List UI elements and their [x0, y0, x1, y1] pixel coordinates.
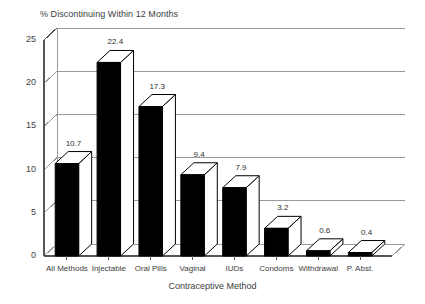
bar-value-label: 9.4	[179, 150, 219, 159]
bar-chart: % Discontinuing Within 12 Months 0510152…	[0, 0, 425, 304]
y-axis-tick-label: 15	[12, 120, 36, 130]
bar-value-label: 0.4	[347, 228, 387, 237]
bar-value-label: 22.4	[95, 37, 135, 46]
y-axis-tick-label: 10	[12, 164, 36, 174]
bar-value-label: 7.9	[221, 163, 261, 172]
y-axis-tick-label: 0	[12, 250, 36, 260]
bar-value-label: 3.2	[263, 203, 303, 212]
y-axis-tick-label: 5	[12, 207, 36, 217]
bar-value-label: 17.3	[137, 82, 177, 91]
y-axis-tick-label: 25	[12, 34, 36, 44]
bar-value-label: 10.7	[53, 139, 93, 148]
x-axis-title: Contraceptive Method	[0, 281, 425, 291]
x-axis-tick-label: P. Abst.	[322, 264, 398, 273]
y-axis-tick-label: 20	[12, 77, 36, 87]
bar-value-label: 0.6	[305, 226, 345, 235]
